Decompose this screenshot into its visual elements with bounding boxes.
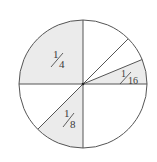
shaded-region-one-eighth [38,84,83,148]
denominator: 8 [70,118,76,130]
numerator: 1 [64,107,70,119]
fraction-circle-diagram: 1 4 1 16 1 8 [0,0,157,162]
center-point [82,83,85,86]
shaded-region-one-quarter [19,20,83,84]
denominator: 16 [128,75,138,86]
numerator: 1 [53,48,59,60]
numerator: 1 [121,68,126,79]
denominator: 4 [59,58,65,70]
